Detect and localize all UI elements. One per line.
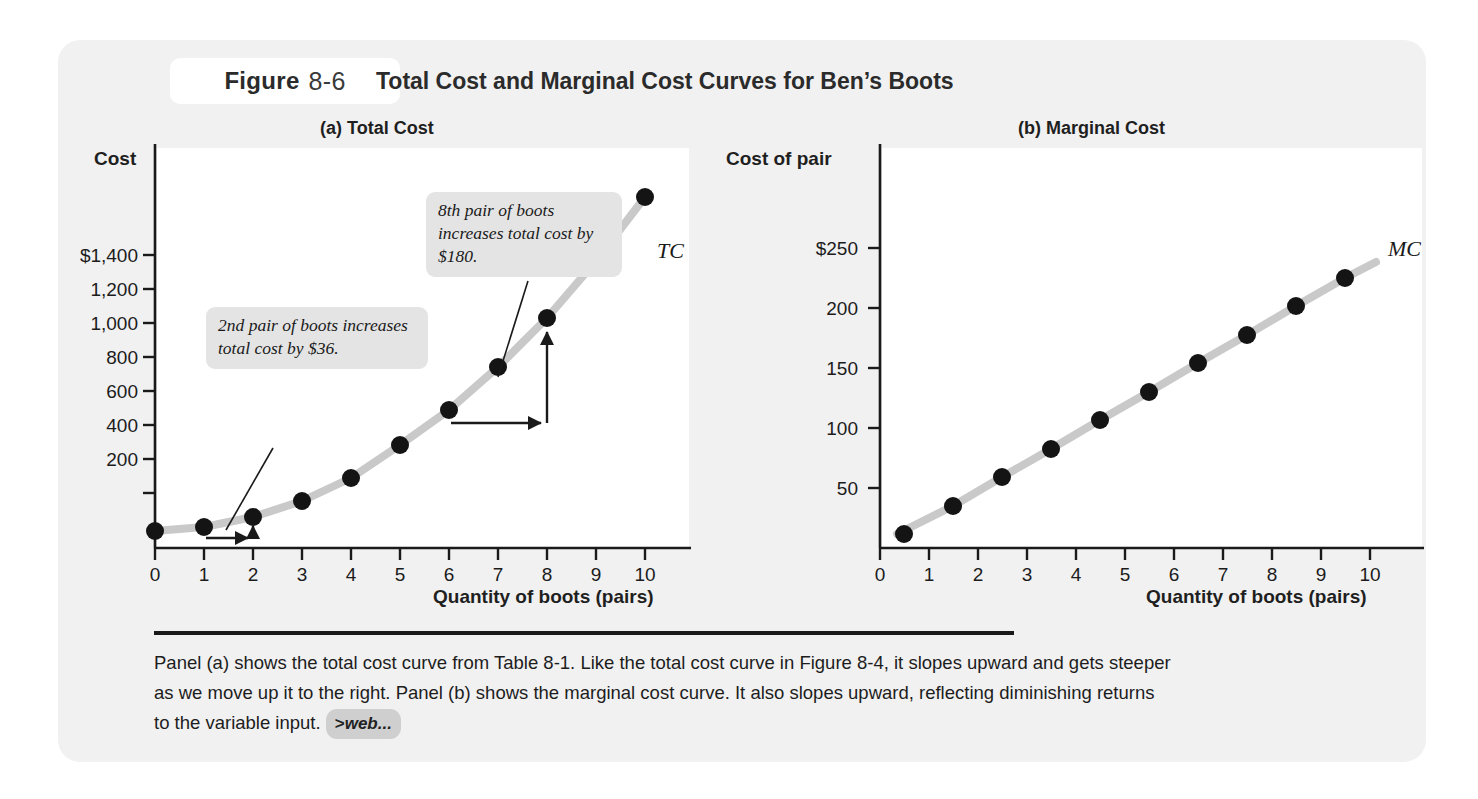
panel-b-xtick-4: 4 [1061,564,1091,586]
panel-b-xtick-1: 1 [914,564,944,586]
panel-b-ytick-200: 200 [758,298,858,320]
panel-b-xtick-10: 10 [1355,564,1385,586]
panel-b-ytick-150: 150 [758,358,858,380]
panel-b-xtick-6: 6 [1159,564,1189,586]
figure-card: Figure 8-6 Total Cost and Marginal Cost … [58,40,1426,762]
panel-b-xtick-2: 2 [963,564,993,586]
panel-b-x-ticks [880,548,1370,560]
panel-b-y-ticks [868,248,880,488]
panel-b-ytick-250: $250 [758,238,858,260]
web-badge[interactable]: >web... [326,709,401,740]
panel-b-xtick-8: 8 [1257,564,1287,586]
panel-b-xtick-5: 5 [1110,564,1140,586]
caption-text: Panel (a) shows the total cost curve fro… [154,652,1171,733]
panel-b-curve-label: MC [1388,236,1421,262]
figure-caption: Panel (a) shows the total cost curve fro… [154,648,1174,739]
caption-divider [154,631,1014,635]
panel-b-xtick-0: 0 [865,564,895,586]
figure-page: Figure 8-6 Total Cost and Marginal Cost … [0,0,1478,799]
panel-b-ytick-100: 100 [758,418,858,440]
panel-b-xtick-3: 3 [1012,564,1042,586]
web-badge-text: web [345,714,378,733]
panel-b-ytick-50: 50 [758,478,858,500]
panel-b-xtick-9: 9 [1306,564,1336,586]
panel-b-xtick-7: 7 [1208,564,1238,586]
